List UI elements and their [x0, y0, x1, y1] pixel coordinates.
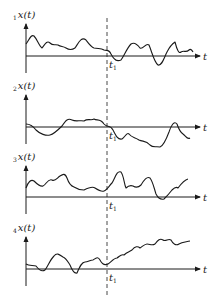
x-axis-label: t	[203, 122, 208, 133]
panel-2: 2x(t)tt1	[13, 80, 208, 147]
panel-3: 3x(t)tt1	[13, 151, 208, 214]
t1-label: t1	[109, 59, 117, 71]
x-axis-label: t	[203, 192, 208, 203]
panel-4: 4x(t)tt1	[13, 222, 208, 286]
y-axis-label: 2x(t)	[13, 80, 35, 92]
y-axis-label: 1x(t)	[13, 9, 35, 21]
sample-function-curve	[26, 119, 190, 147]
random-process-figure: 1x(t)tt12x(t)tt13x(t)tt14x(t)tt1	[0, 0, 216, 301]
y-axis-label: 4x(t)	[13, 222, 35, 234]
panel-1: 1x(t)tt1	[13, 9, 208, 73]
sample-function-curve	[26, 239, 190, 273]
x-axis-label: t	[203, 51, 208, 62]
t1-label: t1	[109, 272, 117, 284]
t1-label: t1	[109, 200, 117, 212]
y-axis-label: 3x(t)	[13, 151, 35, 163]
x-axis-label: t	[203, 264, 208, 275]
